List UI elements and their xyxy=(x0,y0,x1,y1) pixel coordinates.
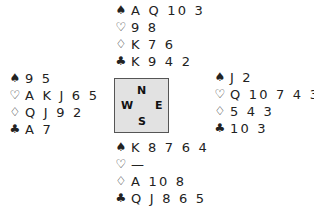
east-diamonds: 5 4 3 xyxy=(230,103,274,120)
north-hearts: 9 8 xyxy=(131,19,158,36)
east-clubs: 10 3 xyxy=(230,120,268,137)
compass-box: N W E S xyxy=(114,78,169,133)
diamond-icon: ♢ xyxy=(214,103,226,120)
north-clubs: K 9 4 2 xyxy=(131,53,192,70)
compass-west: W xyxy=(121,100,133,111)
heart-icon: ♡ xyxy=(115,156,127,173)
north-diamonds: K 7 6 xyxy=(131,36,175,53)
spade-icon: ♠ xyxy=(115,2,127,19)
west-hearts: A K J 6 5 xyxy=(25,87,99,104)
north-spades: A Q 10 3 xyxy=(131,2,205,19)
club-icon: ♣ xyxy=(214,120,226,137)
spade-icon: ♠ xyxy=(9,70,21,87)
east-hearts: Q 10 7 4 3 2 xyxy=(230,86,314,103)
heart-icon: ♡ xyxy=(9,87,21,104)
south-clubs: Q J 8 6 5 xyxy=(131,190,206,207)
spade-icon: ♠ xyxy=(214,69,226,86)
west-diamonds: Q J 9 2 xyxy=(25,104,83,121)
heart-icon: ♡ xyxy=(115,19,127,36)
club-icon: ♣ xyxy=(9,121,21,138)
diamond-icon: ♢ xyxy=(115,173,127,190)
west-clubs: A 7 xyxy=(25,121,53,138)
club-icon: ♣ xyxy=(115,190,127,207)
heart-icon: ♡ xyxy=(214,86,226,103)
south-hearts: — xyxy=(131,156,146,173)
east-spades: J 2 xyxy=(230,69,253,86)
west-spades: 9 5 xyxy=(25,70,52,87)
compass-south: S xyxy=(138,116,146,127)
club-icon: ♣ xyxy=(115,53,127,70)
diamond-icon: ♢ xyxy=(115,36,127,53)
compass-north: N xyxy=(137,85,146,96)
diamond-icon: ♢ xyxy=(9,104,21,121)
south-spades: K 8 7 6 4 xyxy=(131,139,209,156)
spade-icon: ♠ xyxy=(115,139,127,156)
compass-east: E xyxy=(155,100,163,111)
south-diamonds: A 10 8 xyxy=(131,173,186,190)
